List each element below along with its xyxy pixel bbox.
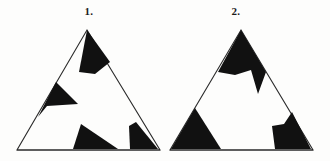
two-triangles-figure: 1. 2. <box>0 0 330 161</box>
item-1-label: 1. <box>85 5 94 17</box>
figure-container: 1. 2. <box>0 0 330 161</box>
item-2-label: 2. <box>232 5 241 17</box>
